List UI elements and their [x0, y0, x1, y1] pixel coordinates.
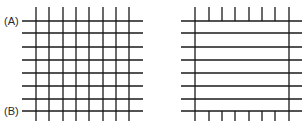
left-grid — [22, 7, 143, 121]
label-a: (A) — [4, 15, 19, 27]
grid-diagram — [0, 0, 306, 130]
label-b: (B) — [4, 105, 19, 117]
right-grid — [181, 7, 302, 121]
